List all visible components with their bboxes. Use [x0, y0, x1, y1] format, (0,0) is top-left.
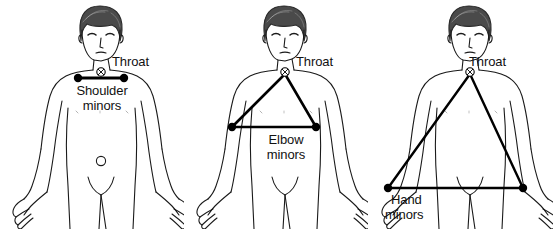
throat-point-marker [281, 68, 289, 76]
throat-point-marker [97, 68, 105, 76]
elbow-minors-label-line1: Elbow [244, 133, 328, 147]
right-elbow-point [312, 123, 320, 131]
hand-minors-label-line1: Hand [391, 193, 422, 207]
right-hand-point [519, 184, 527, 192]
shoulder-minors-label-line1: Shoulder [60, 84, 144, 98]
elbow-minors-label-line2: minors [244, 148, 328, 162]
left-hand-point [384, 184, 392, 192]
hand-connection-triangle [388, 74, 523, 188]
panel-shoulder-minors: Throat Shoulder minors [0, 0, 184, 229]
left-elbow-point [228, 123, 236, 131]
throat-label: Throat [112, 55, 149, 69]
left-shoulder-point [74, 74, 82, 82]
throat-label: Throat [469, 55, 506, 69]
hand-minors-label-line2: minors [385, 208, 423, 222]
throat-label: Throat [296, 55, 333, 69]
panel-elbow-minors: Throat Elbow minors [184, 0, 368, 229]
shoulder-minors-label-line2: minors [60, 99, 144, 113]
panel-hand-minors: Throat Hand minors [369, 0, 553, 229]
figure-elbow-minors [184, 0, 368, 229]
figure-shoulder-minors [0, 0, 184, 229]
throat-point-marker [466, 68, 474, 76]
diagram-canvas: Throat Shoulder minors [0, 0, 553, 229]
right-shoulder-point [120, 74, 128, 82]
elbow-connection-triangle [232, 74, 316, 127]
